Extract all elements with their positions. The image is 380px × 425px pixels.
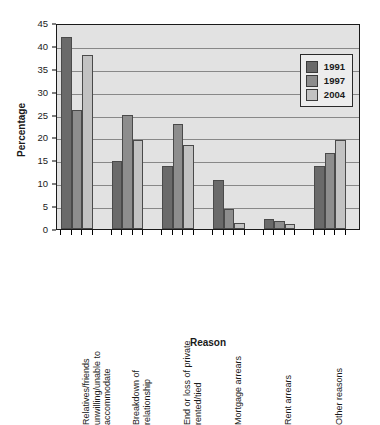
x-tick-mark [273, 230, 274, 235]
legend-swatch-1991 [306, 61, 318, 73]
legend-swatch-1997 [306, 75, 318, 87]
bar [234, 223, 245, 229]
bar [224, 209, 235, 229]
x-axis-title: Reason [56, 337, 360, 348]
x-tick-mark [81, 230, 82, 235]
y-tick-label: 45 [37, 19, 48, 29]
x-axis-ticks [56, 230, 360, 236]
y-tick-label: 25 [37, 111, 48, 121]
legend-label-1997: 1997 [324, 76, 345, 86]
x-tick-mark [223, 230, 224, 235]
x-tick-mark [60, 230, 61, 235]
bar [173, 124, 184, 229]
y-tick-label: 5 [43, 202, 48, 212]
x-tick-mark [132, 230, 133, 235]
x-tick-mark [263, 230, 264, 235]
bar [325, 153, 336, 229]
bar [335, 140, 346, 229]
legend-label-1991: 1991 [324, 62, 345, 72]
x-tick-mark [313, 230, 314, 235]
x-tick-mark [212, 230, 213, 235]
plot-area: 1991 1997 2004 [56, 24, 360, 230]
bar [61, 37, 72, 229]
legend: 1991 1997 2004 [300, 54, 353, 107]
x-tick-mark [294, 230, 295, 235]
x-tick-mark [161, 230, 162, 235]
y-tick-label: 15 [37, 157, 48, 167]
bar [133, 140, 144, 229]
bar [183, 145, 194, 229]
y-axis-title: Percentage [14, 30, 28, 230]
bar [274, 221, 285, 229]
x-tick-mark [345, 230, 346, 235]
x-tick-mark [121, 230, 122, 235]
legend-swatch-2004 [306, 89, 318, 101]
bar [213, 180, 224, 229]
x-tick-mark [244, 230, 245, 235]
legend-label-2004: 2004 [324, 90, 345, 100]
y-axis-ticks: 051015202530354045 [28, 24, 52, 230]
y-tick-label: 30 [37, 88, 48, 98]
bar [82, 55, 93, 229]
legend-item: 1997 [306, 74, 345, 87]
x-tick-mark [111, 230, 112, 235]
y-tick-label: 35 [37, 65, 48, 75]
x-axis-labels: Relatives/friends unwilling/unable to ac… [56, 237, 360, 332]
y-axis-title-text: Percentage [16, 103, 27, 157]
y-tick-label: 10 [37, 179, 48, 189]
x-tick-mark [92, 230, 93, 235]
x-tick-mark [324, 230, 325, 235]
bar [285, 224, 296, 229]
x-tick-mark [172, 230, 173, 235]
page-caption-sliver [14, 357, 344, 362]
bar [264, 219, 275, 229]
x-tick-mark [334, 230, 335, 235]
bar [112, 161, 123, 229]
bar [162, 166, 173, 229]
y-tick-label: 40 [37, 42, 48, 52]
legend-item: 1991 [306, 60, 345, 73]
y-tick-label: 0 [43, 225, 48, 235]
bar [72, 110, 83, 229]
x-tick-mark [71, 230, 72, 235]
legend-item: 2004 [306, 88, 345, 101]
x-tick-mark [182, 230, 183, 235]
x-tick-mark [233, 230, 234, 235]
y-tick-label: 20 [37, 134, 48, 144]
x-tick-mark [142, 230, 143, 235]
x-tick-mark [284, 230, 285, 235]
bar [122, 115, 133, 229]
x-tick-mark [193, 230, 194, 235]
bar [314, 166, 325, 229]
